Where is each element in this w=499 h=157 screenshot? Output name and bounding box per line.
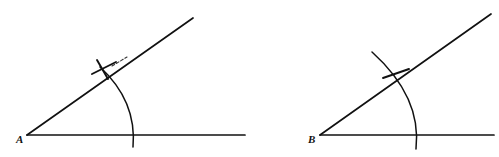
vertex-label-b: B: [307, 133, 315, 145]
figure-background: [0, 0, 499, 157]
vertex-label-a: A: [15, 133, 23, 145]
geometry-figure-canvas: A B: [0, 0, 499, 157]
